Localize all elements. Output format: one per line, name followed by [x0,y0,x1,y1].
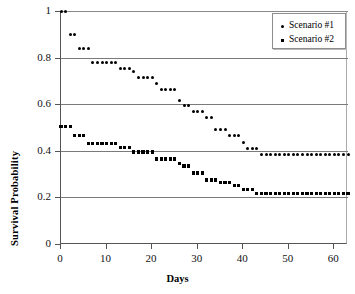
y-axis-title: Survival Probability [9,86,20,246]
gridline [61,58,348,59]
data-point [105,61,108,64]
data-point [228,181,231,184]
data-point [91,61,94,64]
y-tick-label: 0.6 [0,98,51,109]
data-point [73,33,76,36]
data-point [287,192,290,195]
data-point [187,104,190,107]
data-point [305,192,308,195]
data-point [73,134,76,137]
x-tick-label: 0 [48,253,72,264]
data-point [246,188,249,191]
data-point [78,134,81,137]
data-point [192,110,195,113]
data-point [337,192,340,195]
data-point [87,47,90,50]
data-point [264,192,267,195]
data-point [342,153,345,156]
data-point [196,110,199,113]
data-point [169,157,172,160]
data-point [337,153,340,156]
legend-item-scenario-1: Scenario #1 [278,18,341,32]
data-point [237,134,240,137]
y-tick-label: 1 [0,5,51,16]
data-point [210,178,213,181]
data-point [196,171,199,174]
data-point [137,76,140,79]
data-point [346,192,349,195]
data-point [114,61,117,64]
data-point [64,10,67,13]
data-point [59,125,62,128]
survival-probability-chart: Survival Probability 00.20.40.60.81 0102… [0,0,355,294]
data-point [278,192,281,195]
data-point [274,192,277,195]
data-point [306,153,309,156]
data-point [224,128,227,131]
circle-marker-icon [278,20,287,30]
data-point [110,142,113,145]
data-point [219,128,222,131]
y-tick-label: 0.4 [0,145,51,156]
data-point [146,150,149,153]
x-tick-label: 30 [185,253,209,264]
gridline [61,197,348,198]
data-point [164,157,167,160]
data-point [146,76,149,79]
data-point [160,157,163,160]
data-point [296,153,299,156]
data-point [251,188,254,191]
data-point [233,184,236,187]
data-point [223,181,226,184]
x-tick-mark [333,244,334,249]
data-point [233,134,236,137]
gridline [61,104,348,105]
y-tick-label: 0 [0,238,51,249]
data-point [123,67,126,70]
data-point [210,116,213,119]
gridline [61,151,348,152]
legend-label: Scenario #2 [289,34,334,44]
data-point [319,153,322,156]
data-point [246,147,249,150]
data-point [182,164,185,167]
data-point [155,82,158,85]
x-tick-label: 10 [94,253,118,264]
data-point [269,192,272,195]
data-point [251,147,254,150]
x-tick-label: 40 [230,253,254,264]
data-point [96,142,99,145]
data-point [283,192,286,195]
data-point [69,125,72,128]
gridline [61,11,348,12]
data-point [201,171,204,174]
data-point [119,146,122,149]
x-tick-label: 60 [321,253,345,264]
data-point [205,116,208,119]
data-point [60,10,63,13]
data-point [324,192,327,195]
data-point [333,192,336,195]
data-point [110,61,113,64]
data-point [169,88,172,91]
data-point [100,142,103,145]
data-point [219,181,222,184]
data-point [151,150,154,153]
data-point [296,192,299,195]
data-point [132,70,135,73]
data-point [137,150,140,153]
data-point [301,153,304,156]
x-tick-mark [288,244,289,249]
data-point [265,153,268,156]
data-point [160,88,163,91]
data-point [173,157,176,160]
data-point [78,47,81,50]
x-tick-mark [242,244,243,249]
x-tick-label: 20 [139,253,163,264]
data-point [69,33,72,36]
square-marker-icon [278,34,287,44]
data-point [114,142,117,145]
data-point [328,153,331,156]
data-point [315,192,318,195]
data-point [269,153,272,156]
